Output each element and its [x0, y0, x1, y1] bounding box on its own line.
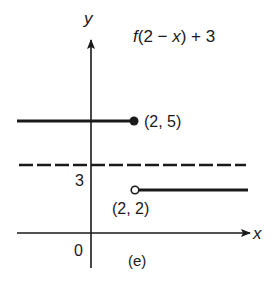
panel-label: (e) [128, 252, 146, 269]
chart-title: f(2 − x) + 3 [133, 27, 215, 46]
closed-endpoint-dot [130, 117, 139, 126]
y-tick-label-3: 3 [75, 172, 84, 189]
point-label-open: (2, 2) [112, 200, 149, 217]
x-axis-label: x [252, 224, 262, 243]
graph-canvas: y x f(2 − x) + 3 (2, 5) 3 (2, 2) 0 (e) [0, 0, 279, 287]
open-endpoint-circle [131, 186, 139, 194]
point-label-closed: (2, 5) [144, 113, 181, 130]
origin-label: 0 [74, 242, 83, 259]
y-axis-label: y [83, 9, 94, 28]
